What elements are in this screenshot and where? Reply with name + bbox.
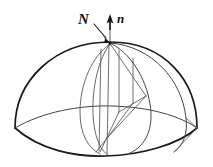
meridian-arcs-front-group [80,44,110,155]
kite-diagonal-cross [119,96,146,112]
kite-edge-bottom-to-left [108,103,133,137]
figure-container: N n [0,0,213,167]
base-connector-right [186,118,197,128]
kite-edge-apex-to-right [111,45,146,96]
vector-N-group [94,24,110,43]
inner-kite-polygon-group [96,45,146,152]
equator-arc-back [15,106,197,128]
great-circle-arc-right-inner [110,43,151,153]
great-circle-arc-right-outer [110,43,186,152]
label-N: N [77,11,90,27]
equator-great-circle-group [15,106,197,128]
meridian-arc-left-front [80,44,110,154]
kite-lower-tail [100,112,119,152]
vertical-chords-group [99,44,133,154]
base-curve-bottom-outline [15,128,197,156]
apex-point [109,42,112,45]
label-n: n [117,11,124,26]
kite-edge-right-to-bottom [108,96,146,137]
hemisphere-diagram: N n [0,0,213,167]
vector-N-leader [94,24,106,38]
